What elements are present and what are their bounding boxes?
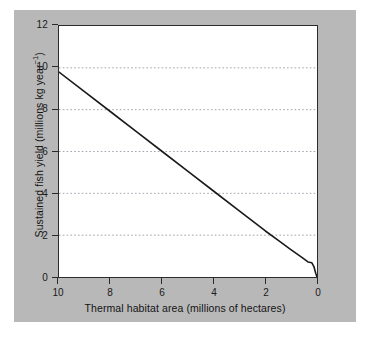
y-axis-tick bbox=[52, 24, 58, 25]
gridlines-group bbox=[59, 68, 317, 235]
y-axis-tick bbox=[52, 235, 58, 236]
x-axis-tick bbox=[213, 278, 214, 284]
y-axis-tick bbox=[52, 151, 58, 152]
chart-canvas bbox=[59, 26, 317, 277]
y-axis-tick bbox=[52, 193, 58, 194]
x-axis-tick-label: 10 bbox=[46, 287, 70, 298]
x-axis-tick bbox=[57, 278, 58, 284]
x-axis-tick-label: 4 bbox=[202, 287, 226, 298]
data-series-group bbox=[59, 72, 317, 277]
x-axis-tick bbox=[265, 278, 266, 284]
x-axis-title: Thermal habitat area (millions of hectar… bbox=[14, 302, 356, 314]
x-axis-tick bbox=[317, 278, 318, 284]
x-axis-tick-label: 6 bbox=[150, 287, 174, 298]
y-axis-title-close: ) bbox=[33, 52, 45, 56]
y-axis-tick-label: 12 bbox=[22, 20, 48, 30]
x-axis-tick-label: 0 bbox=[306, 287, 330, 298]
y-axis-tick bbox=[52, 109, 58, 110]
y-axis-tick bbox=[52, 66, 58, 67]
x-axis-tick bbox=[109, 278, 110, 284]
y-axis-title-exponent: −1 bbox=[31, 56, 40, 65]
data-line bbox=[59, 72, 317, 277]
plot-area bbox=[58, 25, 318, 278]
figure-panel: 024681012 1086420 Thermal habitat area (… bbox=[14, 10, 356, 322]
x-axis-tick-label: 8 bbox=[98, 287, 122, 298]
x-axis-tick-label: 2 bbox=[254, 287, 278, 298]
x-axis-tick bbox=[161, 278, 162, 284]
y-axis-title: Sustained fish yield (millions kg year−1… bbox=[31, 35, 45, 255]
y-axis-title-main: Sustained fish yield (millions kg year bbox=[33, 64, 45, 237]
y-axis-tick-label: 0 bbox=[22, 273, 48, 283]
